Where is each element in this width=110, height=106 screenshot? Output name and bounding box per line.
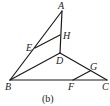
label-f: F xyxy=(67,81,75,92)
label-d: D xyxy=(55,55,64,66)
segment-bd xyxy=(10,53,60,80)
segment-fg xyxy=(73,71,90,80)
label-a: A xyxy=(57,0,65,11)
point-labels: A H E D G B F C xyxy=(5,0,109,92)
label-c: C xyxy=(102,81,109,92)
label-e: E xyxy=(25,42,32,53)
label-b: B xyxy=(5,81,11,92)
label-h: H xyxy=(62,30,71,41)
geometry-diagram: A H E D G B F C (b) xyxy=(0,0,110,106)
label-g: G xyxy=(90,61,97,72)
segment-ab xyxy=(10,11,62,80)
segment-ad xyxy=(60,11,62,53)
segment-dc xyxy=(60,53,107,80)
figure-caption: (b) xyxy=(42,93,54,105)
